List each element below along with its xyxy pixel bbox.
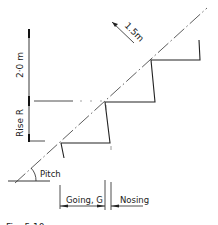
figure-caption: Fig. 5.10 — [6, 222, 45, 225]
headroom-label: 2·0 m — [15, 52, 25, 78]
pitch-angle-arc — [31, 168, 36, 181]
rise-label: Rise R — [15, 109, 25, 137]
pitch-label: Pitch — [40, 169, 61, 179]
nosing-label: Nosing — [120, 195, 149, 205]
nosing-arrowhead — [111, 205, 119, 208]
going-label: Going, G — [66, 195, 103, 205]
pitch-line — [15, 8, 207, 183]
stair-diagram: 1.5m 2·0 m Rise R Pitch Going, G Nosing … — [0, 0, 218, 225]
clearance-arrowhead — [112, 22, 118, 27]
stair-profile — [61, 40, 200, 158]
clearance-label: 1.5m — [123, 20, 146, 43]
